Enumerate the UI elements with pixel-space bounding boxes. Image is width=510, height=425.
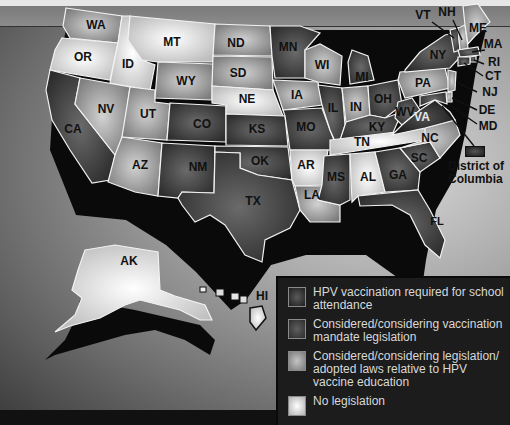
label-ND: ND (227, 36, 245, 50)
label-MN: MN (279, 40, 298, 54)
legend: HPV vaccination required for school atte… (276, 276, 510, 425)
label-GA: GA (389, 168, 407, 182)
label-SD: SD (230, 66, 247, 80)
label-MT: MT (163, 35, 181, 49)
label-AR: AR (297, 158, 315, 172)
dc-label: District of Columbia (448, 160, 504, 186)
label-IN: IN (350, 100, 362, 114)
map-figure: WA OR CA ID NV UT AZ MT WY CO NM ND SD N… (0, 0, 510, 425)
legend-label-required: HPV vaccination required for school atte… (313, 286, 504, 312)
label-FL: FL (430, 215, 444, 227)
swatch-mandate (288, 319, 306, 339)
label-MS: MS (327, 170, 345, 184)
label-NJ: NJ (482, 85, 497, 99)
label-IL: IL (328, 101, 339, 115)
legend-label-education: Considered/considering legislation/ adop… (313, 350, 504, 389)
label-OH: OH (374, 92, 392, 106)
label-KS: KS (249, 122, 266, 136)
label-WI: WI (315, 58, 330, 72)
label-WA: WA (86, 18, 106, 32)
label-NV: NV (98, 102, 115, 116)
label-VT: VT (415, 8, 431, 22)
label-MD: MD (479, 119, 498, 133)
swatch-none (288, 396, 306, 416)
swatch-education (288, 351, 306, 371)
label-UT: UT (140, 107, 157, 121)
label-WV: WV (395, 105, 414, 119)
swatch-required (288, 287, 306, 307)
label-KY: KY (369, 120, 386, 134)
label-HI: HI (256, 289, 268, 303)
label-CO: CO (193, 117, 211, 131)
label-IA: IA (291, 88, 303, 102)
label-AL: AL (360, 170, 376, 184)
label-VA: VA (414, 110, 430, 124)
label-MA: MA (484, 37, 503, 51)
label-TX: TX (245, 194, 260, 208)
label-AK: AK (120, 254, 138, 268)
label-LA: LA (304, 188, 320, 202)
legend-item-none: No legislation (288, 395, 504, 416)
label-RI: RI (488, 55, 500, 69)
label-MO: MO (296, 120, 315, 134)
label-ME: ME (469, 21, 487, 35)
label-CT: CT (485, 69, 502, 83)
label-CA: CA (64, 122, 82, 136)
label-WY: WY (176, 74, 195, 88)
label-NH: NH (438, 5, 455, 19)
legend-label-none: No legislation (313, 395, 385, 408)
legend-item-mandate: Considered/considering vaccination manda… (288, 318, 504, 344)
state-NJ[interactable] (448, 70, 456, 92)
label-AZ: AZ (132, 158, 148, 172)
label-OR: OR (74, 50, 92, 64)
label-NC: NC (421, 131, 439, 145)
legend-item-required: HPV vaccination required for school atte… (288, 286, 504, 312)
dc-label-line2: Columbia (448, 173, 504, 186)
label-SC: SC (411, 151, 428, 165)
legend-label-mandate: Considered/considering vaccination manda… (313, 318, 504, 344)
label-PA: PA (415, 76, 431, 90)
dc-swatch[interactable] (465, 146, 485, 157)
state-CT[interactable] (458, 57, 470, 66)
label-NE: NE (239, 92, 256, 106)
label-NM: NM (189, 160, 208, 174)
label-TN: TN (354, 135, 370, 149)
bottom-strip (0, 410, 276, 425)
legend-item-education: Considered/considering legislation/ adop… (288, 350, 504, 389)
label-NY: NY (430, 48, 447, 62)
label-DE: DE (479, 103, 496, 117)
label-ID: ID (122, 57, 134, 71)
label-OK: OK (251, 154, 269, 168)
label-MI: MI (355, 70, 368, 84)
